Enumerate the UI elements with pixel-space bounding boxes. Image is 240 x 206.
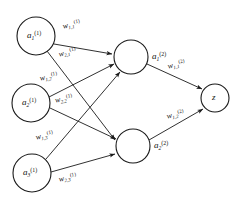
node-label-z-base: z xyxy=(212,92,216,102)
node-label-a2-1-sup: (1) xyxy=(29,97,36,103)
node-label-a1-2: a1(2) xyxy=(152,52,166,62)
weight-label-w22-1-sup: (1) xyxy=(65,92,72,99)
node-label-a1-2-sup: (2) xyxy=(159,51,166,57)
weight-label-w11-2-sub: 1,1 xyxy=(173,64,180,70)
node-label-a2-2: a2(2) xyxy=(154,141,168,151)
node-label-a1-1-sup: (1) xyxy=(34,30,41,36)
node-a1-2[interactable] xyxy=(114,40,148,74)
node-label-a2-2-sup: (2) xyxy=(161,140,168,146)
weight-label-w21-1-sub: 2,1 xyxy=(64,52,71,58)
edge-a3-1-to-a1-2 xyxy=(46,72,120,159)
node-label-a2-1: a2(1) xyxy=(22,98,36,108)
weight-label-w13-1-sup: (1) xyxy=(46,129,53,136)
weight-label-w12-2-sub: 1,2 xyxy=(172,114,179,120)
node-label-a3-1-sup: (1) xyxy=(30,167,37,173)
weight-label-w22-1-sub: 2,2 xyxy=(60,98,67,104)
weight-label-w11-2-sup: (2) xyxy=(178,57,185,64)
weight-label-w12-1-sub: 1,2 xyxy=(45,76,52,82)
edge-a2-1-to-a1-2 xyxy=(49,64,114,97)
node-label-z: z xyxy=(212,93,216,103)
weight-label-w13-1-sub: 1,3 xyxy=(41,135,48,141)
weight-label-w23-1-sub: 2,3 xyxy=(64,177,71,183)
edge-a2-1-to-a2-2 xyxy=(50,108,116,139)
weight-label-w11-1-sup: (1) xyxy=(73,18,80,25)
node-label-a3-1: a3(1) xyxy=(23,168,37,178)
node-label-a1-1: a1(1) xyxy=(27,31,41,41)
neural-network-diagram: a1(1) a2(1) a3(1) a1(2) a2(2) z w1,1(1) … xyxy=(0,0,240,206)
weight-label-w23-1-sup: (1) xyxy=(69,171,76,178)
weight-label-w12-2-sup: (2) xyxy=(177,107,184,114)
weight-label-w21-1-sup: (1) xyxy=(68,45,75,52)
weight-label-w11-1-sub: 1,1 xyxy=(68,24,75,30)
edge-a3-1-to-a2-2 xyxy=(51,154,115,172)
node-a2-2[interactable] xyxy=(116,129,150,163)
weight-label-w12-1-sup: (1) xyxy=(50,70,57,77)
